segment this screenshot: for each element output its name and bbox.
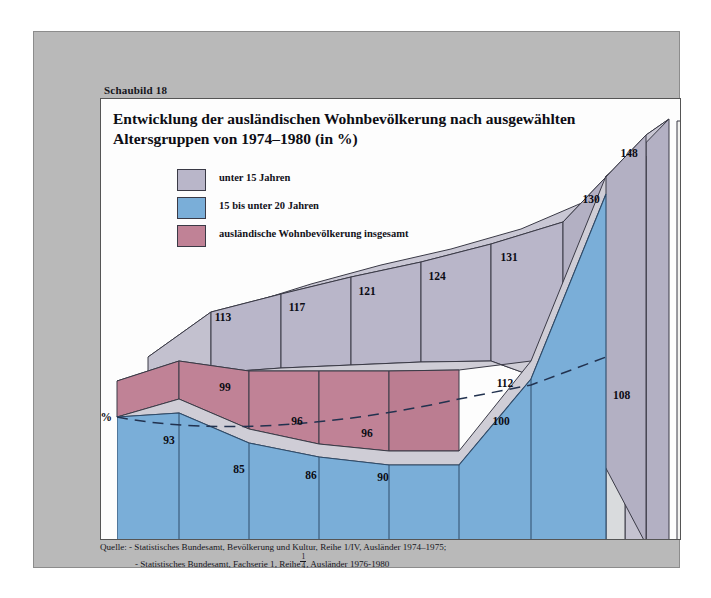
legend-swatch-unter-15 [177,169,206,191]
label-86: 86 [305,469,317,481]
figure-number: Schaubild 18 [104,84,167,96]
chart-legend: unter 15 Jahren 15 bis unter 20 Jahren a… [177,169,467,253]
label-130: 130 [582,193,600,205]
source-text-1: - Statistisches Bundesamt, Bevölkerung u… [129,542,446,552]
label-112: 112 [497,377,514,389]
label-148: 148 [620,147,638,159]
label-90: 90 [377,471,389,483]
label-96-1976: 96 [291,415,303,427]
label-121: 121 [358,285,376,297]
label-93: 93 [163,434,175,446]
legend-item-unter-15[interactable]: unter 15 Jahren [177,169,467,191]
left-margin-notch [101,417,117,539]
figure-page: Schaubild 18 Entwicklung der ausländisch… [0,0,711,598]
label-124: 124 [428,270,446,282]
legend-label-insgesamt: ausländische Wohnbevölkerung insgesamt [219,225,408,241]
label-96-1977: 96 [361,427,373,439]
chart-canvas: 100 % 99 96 96 100 108 93 85 86 90 112 1… [101,99,680,539]
source-text-2a: - Statistisches Bundesamt, Fachserie 1, … [135,559,300,569]
legend-item-15-bis-20[interactable]: 15 bis unter 20 Jahren [177,197,467,219]
label-99: 99 [219,381,231,393]
label-100-1979: 100 [492,415,510,427]
source-line-1: Quelle: - Statistisches Bundesamt, Bevöl… [100,541,690,553]
figure-panel: Schaubild 18 Entwicklung der ausländisch… [33,31,680,568]
legend-swatch-15-bis-20 [177,197,206,219]
label-85: 85 [233,463,245,475]
legend-swatch-insgesamt [177,225,206,247]
source-line-2: - Statistisches Bundesamt, Fachserie 1, … [100,553,690,570]
label-117: 117 [289,301,306,313]
label-100-prozent: 100 % [101,411,112,423]
legend-item-insgesamt[interactable]: ausländische Wohnbevölkerung insgesamt [177,225,467,247]
chart-card: Entwicklung der ausländischen Wohnbevölk… [100,98,681,540]
source-text-2b: , Ausländer 1976-1980 [306,559,389,569]
label-113: 113 [215,311,232,323]
source-prefix: Quelle: [100,542,127,552]
label-131: 131 [500,251,518,263]
legend-label-15-bis-20: 15 bis unter 20 Jahren [219,197,319,213]
legend-label-unter-15: unter 15 Jahren [219,169,290,185]
label-108-1980: 108 [613,389,631,401]
source-note: Quelle: - Statistisches Bundesamt, Bevöl… [100,541,690,570]
